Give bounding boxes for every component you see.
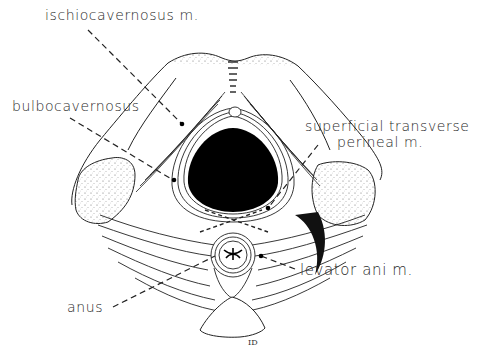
- perineal-body: [200, 210, 268, 232]
- leader-anus: [113, 256, 215, 307]
- artist-signature: ID: [248, 338, 258, 347]
- clitoris: [229, 107, 241, 117]
- anus-structure: [211, 233, 255, 298]
- label-superficial-transverse-line1: superficial transverse: [305, 118, 470, 134]
- label-ischiocavernosus: ischiocavernosus m.: [45, 7, 199, 23]
- label-superficial-transverse-line2: perineal m.: [337, 134, 423, 150]
- mons-pubis: [168, 53, 298, 92]
- label-levator-ani: levator ani m.: [300, 262, 413, 278]
- label-anus: anus: [67, 299, 103, 315]
- coccyx: [200, 297, 265, 337]
- label-bulbocavernosus: bulbocavernosus: [12, 98, 140, 114]
- ischial-tuberosity-right: [312, 162, 375, 226]
- ischial-tuberosity-left: [75, 158, 135, 224]
- vaginal-opening: [188, 128, 278, 212]
